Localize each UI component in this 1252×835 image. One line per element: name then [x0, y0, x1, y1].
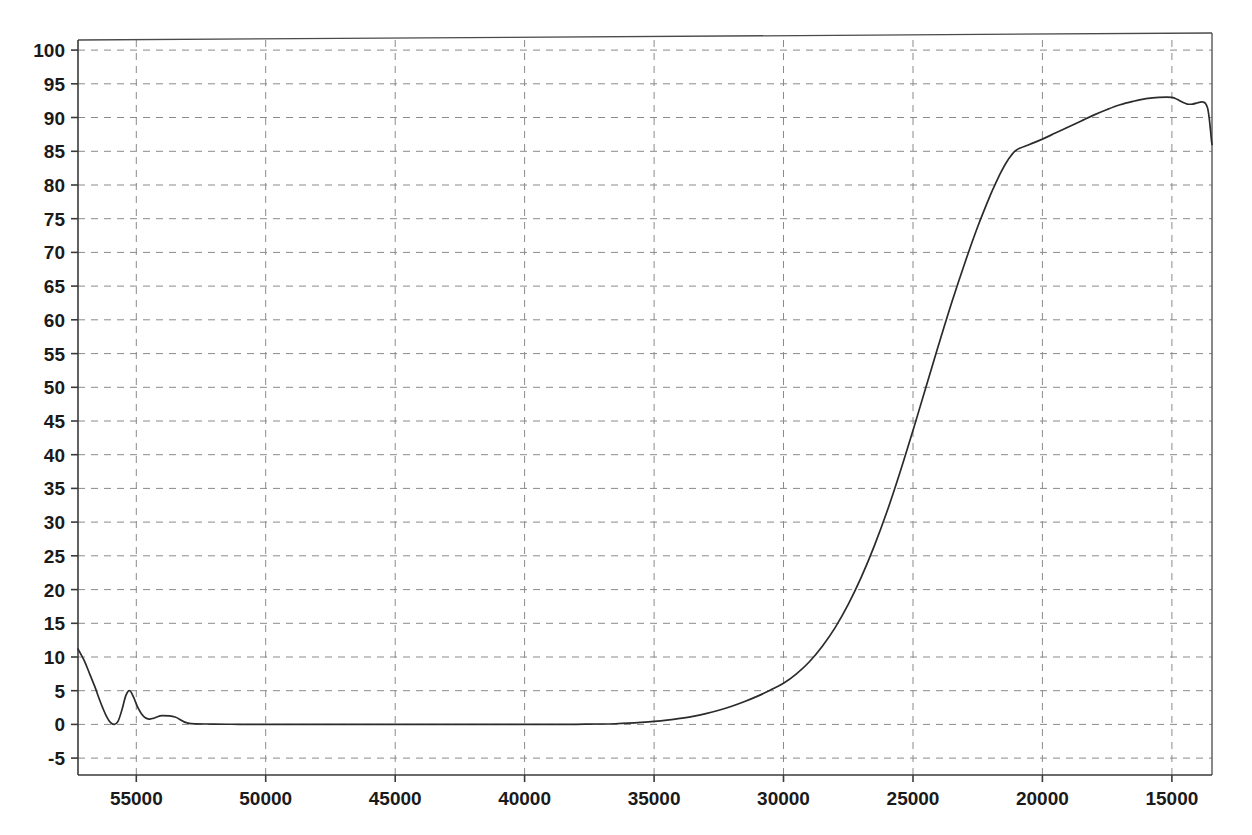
x-axis-ticks: 5500050000450004000035000300002500020000… — [110, 775, 1198, 809]
frame-top — [78, 33, 1212, 40]
y-tick-label: 85 — [44, 141, 66, 162]
x-tick-label: 55000 — [110, 788, 163, 809]
x-tick-label: 40000 — [498, 788, 551, 809]
y-tick-label: 90 — [44, 108, 65, 129]
x-tick-label: 50000 — [239, 788, 292, 809]
y-tick-label: 5 — [54, 681, 65, 702]
x-tick-label: 45000 — [369, 788, 422, 809]
x-tick-label: 35000 — [628, 788, 681, 809]
spectrum-plot: -505101520253035404550556065707580859095… — [0, 0, 1252, 835]
y-tick-label: 75 — [44, 209, 66, 230]
y-tick-label: 65 — [44, 276, 66, 297]
y-tick-label: 30 — [44, 512, 65, 533]
x-tick-label: 25000 — [887, 788, 940, 809]
x-tick-label: 20000 — [1016, 788, 1069, 809]
y-tick-label: 70 — [44, 242, 65, 263]
y-tick-label: 50 — [44, 377, 65, 398]
y-tick-label: 40 — [44, 445, 65, 466]
y-tick-label: -5 — [48, 748, 65, 769]
y-tick-label: 0 — [54, 714, 65, 735]
y-tick-label: 10 — [44, 647, 65, 668]
y-tick-label: 25 — [44, 546, 66, 567]
y-tick-label: 15 — [44, 613, 66, 634]
y-tick-label: 20 — [44, 580, 65, 601]
x-tick-label: 15000 — [1145, 788, 1198, 809]
y-tick-label: 60 — [44, 310, 65, 331]
y-tick-label: 35 — [44, 478, 66, 499]
y-tick-label: 45 — [44, 411, 66, 432]
y-tick-label: 80 — [44, 175, 65, 196]
x-tick-label: 30000 — [757, 788, 810, 809]
y-tick-label: 100 — [33, 40, 65, 61]
y-axis-ticks: -505101520253035404550556065707580859095… — [33, 40, 78, 769]
y-tick-label: 95 — [44, 74, 66, 95]
y-tick-label: 55 — [44, 344, 66, 365]
chart-container: -505101520253035404550556065707580859095… — [0, 0, 1252, 835]
